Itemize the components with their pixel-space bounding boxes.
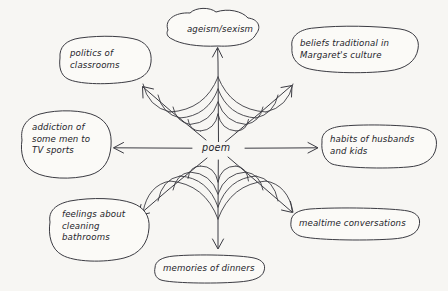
spoke-up <box>218 48 219 143</box>
blob-memories-dinners[interactable] <box>155 255 265 283</box>
blob-feelings-cleaning[interactable] <box>49 199 149 262</box>
blob-mealtime-conversations[interactable] <box>291 208 420 240</box>
blob-habits-husbands[interactable] <box>322 125 437 168</box>
concept-map-canvas: poem ageism/sexism beliefs traditional i… <box>0 0 448 291</box>
center-node-label: poem <box>200 142 232 153</box>
blob-addiction-tv[interactable] <box>21 111 111 178</box>
blob-politics-classrooms[interactable] <box>60 36 151 83</box>
blob-ageism-sexism[interactable] <box>167 8 259 46</box>
spoke-up-right <box>224 86 291 143</box>
blob-beliefs-traditional[interactable] <box>292 26 419 72</box>
spoke-down-right <box>228 157 292 212</box>
